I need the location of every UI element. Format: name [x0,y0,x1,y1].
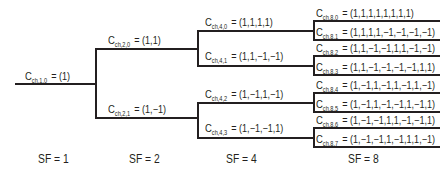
code-symbol: C [316,133,323,145]
code-symbol: C [316,26,323,38]
code-label-ch-8-7: Cch,8,7 = (1,−1,−1,1,−1,1,1,−1) [316,133,435,150]
code-subscript: ch,8,2 [323,49,338,56]
code-subscript: ch,8,5 [323,105,338,112]
code-symbol: C [108,34,115,46]
sf8-bracket-vertical-0 [313,20,315,41]
code-subscript: ch,2,0 [115,41,130,48]
code-symbol: C [316,61,323,73]
code-subscript: ch,8,0 [323,14,338,21]
code-symbol: C [316,98,323,110]
sf-label-4: SF = 4 [226,152,257,166]
code-subscript: ch,4,3 [212,129,227,136]
code-subscript: ch,8,1 [323,33,338,40]
code-value: = (1,−1,1,−1) [231,88,283,100]
code-label-ch-1-0: Cch,1,0 = (1) [25,70,70,87]
code-label-ch-2-0: Cch,2,0 = (1,1) [108,34,161,51]
code-value: = (1,−1,1,−1,1,−1,1,−1) [342,79,435,91]
code-label-ch-8-5: Cch,8,5 = (1,−1,1,−1,−1,1,−1,1) [316,98,435,115]
code-value: = (1,−1,−1,1,1,−1,−1,1) [342,114,435,126]
sf2-bracket-vertical [95,48,97,119]
sf-label-2: SF = 2 [129,152,160,166]
code-symbol: C [108,103,115,115]
code-symbol: C [205,16,212,28]
code-subscript: ch,1,0 [32,77,47,84]
code-subscript: ch,8,3 [323,68,338,75]
code-symbol: C [316,42,323,54]
code-symbol: C [316,7,323,19]
code-value: = (1,1,−1,−1) [231,50,283,62]
code-subscript: ch,4,0 [212,23,227,30]
code-label-ch-4-1: Cch,4,1 = (1,1,−1,−1) [205,50,283,67]
code-symbol: C [25,70,32,82]
sf4-bracket-vertical-top [197,30,199,67]
code-symbol: C [205,88,212,100]
code-label-ch-8-4: Cch,8,4 = (1,−1,1,−1,1,−1,1,−1) [316,79,435,96]
code-subscript: ch,4,1 [212,57,227,64]
code-label-ch-4-2: Cch,4,2 = (1,−1,1,−1) [205,88,283,105]
code-subscript: ch,8,7 [323,140,338,147]
sf4-bracket-vertical-bottom [197,102,199,139]
code-label-ch-8-3: Cch,8,3 = (1,1,−1,−1,−1,−1,1,1) [316,61,435,78]
sf8-bracket-vertical-3 [313,127,315,148]
sf-label-1: SF = 1 [38,152,69,166]
code-value: = (1,1,1,1,1,1,1,1) [342,7,414,19]
code-symbol: C [316,114,323,126]
code-subscript: ch,8,6 [323,121,338,128]
code-value: = (1,−1,−1,1,−1,1,1,−1) [342,133,435,145]
code-subscript: ch,8,4 [323,86,338,93]
sf-label-8: SF = 8 [348,152,379,166]
code-label-ch-8-0: Cch,8,0 = (1,1,1,1,1,1,1,1) [316,7,414,24]
code-value: = (1,1,1,1,−1,−1,−1,−1) [342,26,435,38]
code-value: = (1,1,−1,−1,−1,−1,1,1) [342,61,435,73]
code-label-ch-8-2: Cch,8,2 = (1,1,−1,−1,1,1,−1,−1) [316,42,435,59]
code-label-ch-8-6: Cch,8,6 = (1,−1,−1,1,1,−1,−1,1) [316,114,435,131]
code-label-ch-8-1: Cch,8,1 = (1,1,1,1,−1,−1,−1,−1) [316,26,435,43]
code-value: = (1,1,1,1) [231,16,272,28]
code-value: = (1,1,−1,−1,1,1,−1,−1) [342,42,435,54]
sf8-bracket-vertical-1 [313,55,315,76]
code-label-ch-4-3: Cch,4,3 = (1,−1,−1,1) [205,122,283,139]
code-value: = (1) [51,70,70,82]
code-subscript: ch,4,2 [212,95,227,102]
code-label-ch-2-1: Cch,2,1 = (1,−1) [108,103,166,120]
code-symbol: C [316,79,323,91]
code-symbol: C [205,122,212,134]
code-value: = (1,−1,1,−1,−1,1,−1,1) [342,98,435,110]
code-symbol: C [205,50,212,62]
code-value: = (1,−1,−1,1) [231,122,283,134]
code-value: = (1,1) [134,34,160,46]
sf8-bracket-vertical-2 [313,92,315,113]
code-value: = (1,−1) [134,103,166,115]
code-subscript: ch,2,1 [115,110,130,117]
code-label-ch-4-0: Cch,4,0 = (1,1,1,1) [205,16,273,33]
